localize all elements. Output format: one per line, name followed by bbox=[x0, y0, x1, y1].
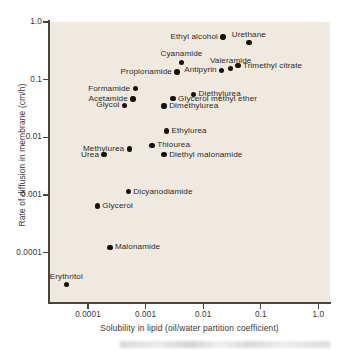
y-tick-mark bbox=[43, 194, 50, 195]
y-tick-mark bbox=[43, 137, 50, 138]
page-caption-smudge bbox=[120, 341, 330, 348]
data-point-label: Valeramide bbox=[210, 57, 252, 65]
scatter-plot-figure: 1.00.10.010.0010.0001 0.00010.0010.010.1… bbox=[0, 0, 344, 351]
data-point-label: Dimethylurea bbox=[169, 102, 218, 110]
data-point-label: Cyanamide bbox=[160, 50, 202, 58]
data-point bbox=[246, 40, 251, 45]
x-tick-label: 1.0 bbox=[288, 310, 344, 319]
y-tick-mark bbox=[43, 21, 50, 22]
data-point-label: Urethane bbox=[232, 30, 266, 38]
y-tick-mark bbox=[43, 252, 50, 253]
data-point-label: Dicyanodiamide bbox=[133, 188, 192, 196]
data-point bbox=[164, 128, 169, 133]
x-tick-mark bbox=[87, 303, 88, 309]
data-point bbox=[161, 103, 166, 108]
data-point-label: Urea bbox=[81, 151, 99, 159]
data-point-label: Ethyl alcohol bbox=[170, 33, 217, 41]
x-tick-mark bbox=[203, 303, 204, 309]
x-tick-mark bbox=[145, 303, 146, 309]
x-tick-label: 0.1 bbox=[231, 310, 291, 319]
data-point-label: Antipyrin bbox=[184, 66, 217, 74]
y-axis-title: Rate of diffusion in membrane (cm/h) bbox=[17, 55, 27, 255]
x-tick-label: 0.01 bbox=[173, 310, 233, 319]
data-point-label: Formamide bbox=[88, 85, 130, 93]
x-axis-title: Solubility in lipid (oil/water partition… bbox=[49, 323, 330, 333]
data-point-label: Thiourea bbox=[157, 141, 190, 149]
x-axis-line bbox=[48, 302, 331, 304]
data-point bbox=[130, 96, 135, 101]
data-point bbox=[127, 146, 132, 151]
x-tick-mark bbox=[318, 303, 319, 309]
data-point-label: Glycol bbox=[96, 101, 119, 109]
x-tick-label: 0.001 bbox=[116, 310, 176, 319]
data-point-label: Ethylurea bbox=[171, 127, 206, 135]
x-tick-label: 0.0001 bbox=[58, 310, 118, 319]
data-point bbox=[149, 143, 154, 148]
x-tick-mark bbox=[260, 303, 261, 309]
data-point bbox=[107, 245, 112, 250]
y-tick-mark bbox=[43, 79, 50, 80]
y-axis-line bbox=[48, 20, 50, 304]
data-point bbox=[95, 203, 100, 208]
data-point bbox=[174, 69, 179, 74]
data-point-label: Glycerol bbox=[102, 202, 133, 210]
y-tick-label: 1.0 bbox=[0, 17, 42, 26]
data-point bbox=[220, 34, 225, 39]
data-point-label: Erythritol bbox=[50, 273, 83, 281]
data-point-label: Malonamide bbox=[115, 243, 160, 251]
data-point-label: Propionamide bbox=[121, 68, 172, 76]
data-point-label: Diethyl malonamide bbox=[169, 151, 242, 159]
